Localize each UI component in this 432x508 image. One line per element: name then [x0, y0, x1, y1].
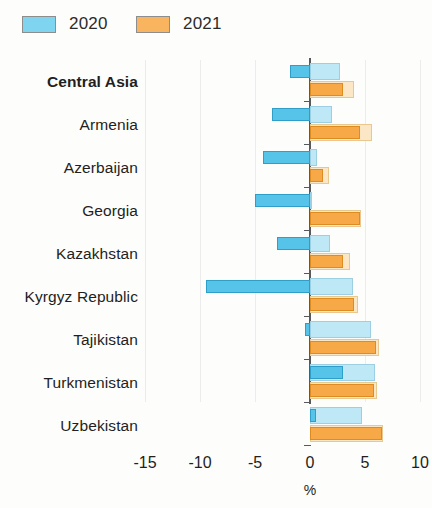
bar-2021 — [310, 341, 376, 354]
bar-lane-2021 — [0, 425, 432, 442]
legend-item-2021: 2021 — [136, 14, 222, 34]
chart-row: Tajikistan — [0, 318, 432, 361]
bar-lane-2020 — [0, 106, 432, 123]
bar-2021 — [310, 169, 323, 182]
chart-row: Central Asia — [0, 60, 432, 103]
bar-2020 — [277, 237, 310, 250]
chart-row: Kyrgyz Republic — [0, 275, 432, 318]
x-axis-tick-label: -5 — [248, 454, 262, 472]
bar-lane-2021 — [0, 167, 432, 184]
bar-lane-2020 — [0, 235, 432, 252]
bar-outer-2020 — [310, 407, 362, 424]
x-axis-tick-label: -10 — [188, 454, 211, 472]
x-axis-tick-label: 10 — [411, 454, 429, 472]
bar-2021 — [310, 255, 343, 268]
bar-outer-2020 — [310, 192, 312, 209]
bar-2020 — [255, 194, 310, 207]
x-axis-unit-label: % — [304, 482, 316, 498]
bar-lane-2020 — [0, 278, 432, 295]
bar-outer-2020 — [310, 278, 353, 295]
legend-item-2020: 2020 — [22, 14, 108, 34]
bar-2021 — [310, 83, 343, 96]
x-axis: % -15-10-50510 — [0, 452, 432, 508]
bar-lane-2020 — [0, 364, 432, 381]
x-axis-tick-label: 5 — [361, 454, 370, 472]
legend-swatch-2021 — [136, 16, 170, 33]
chart-row: Armenia — [0, 103, 432, 146]
bar-lane-2021 — [0, 382, 432, 399]
legend-swatch-2020 — [22, 16, 56, 33]
legend-label-2021: 2021 — [183, 14, 222, 34]
chart-row: Uzbekistan — [0, 404, 432, 447]
bar-2020 — [310, 366, 343, 379]
bar-2021 — [310, 212, 360, 225]
legend-label-2020: 2020 — [69, 14, 108, 34]
bar-2020 — [305, 323, 311, 336]
bar-lane-2020 — [0, 321, 432, 338]
chart-row: Azerbaijan — [0, 146, 432, 189]
x-axis-tick-label: 0 — [306, 454, 315, 472]
bar-2020 — [310, 409, 316, 422]
bar-lane-2021 — [0, 124, 432, 141]
bar-outer-2020 — [310, 149, 317, 166]
bar-2021 — [310, 126, 360, 139]
chart-row: Turkmenistan — [0, 361, 432, 404]
chart-row: Georgia — [0, 189, 432, 232]
bar-lane-2020 — [0, 407, 432, 424]
chart-legend: 2020 2021 — [0, 0, 432, 52]
bar-2020 — [263, 151, 310, 164]
bar-lane-2020 — [0, 149, 432, 166]
bar-lane-2021 — [0, 253, 432, 270]
bar-lane-2021 — [0, 296, 432, 313]
bar-lane-2020 — [0, 192, 432, 209]
bar-2021 — [310, 298, 354, 311]
bar-lane-2021 — [0, 81, 432, 98]
bar-lane-2021 — [0, 210, 432, 227]
bar-chart-plot-area: Central AsiaArmeniaAzerbaijanGeorgiaKaza… — [0, 52, 432, 452]
bar-2020 — [290, 65, 310, 78]
bar-outer-2020 — [310, 63, 340, 80]
bar-outer-2020 — [310, 235, 330, 252]
bar-outer-2020 — [310, 321, 371, 338]
bar-2021 — [310, 384, 374, 397]
x-axis-tick-label: -15 — [133, 454, 156, 472]
bar-2020 — [272, 108, 311, 121]
bar-lane-2021 — [0, 339, 432, 356]
bar-2021 — [310, 427, 382, 440]
bar-lane-2020 — [0, 63, 432, 80]
bar-2020 — [206, 280, 311, 293]
chart-row: Kazakhstan — [0, 232, 432, 275]
bar-outer-2020 — [310, 106, 332, 123]
